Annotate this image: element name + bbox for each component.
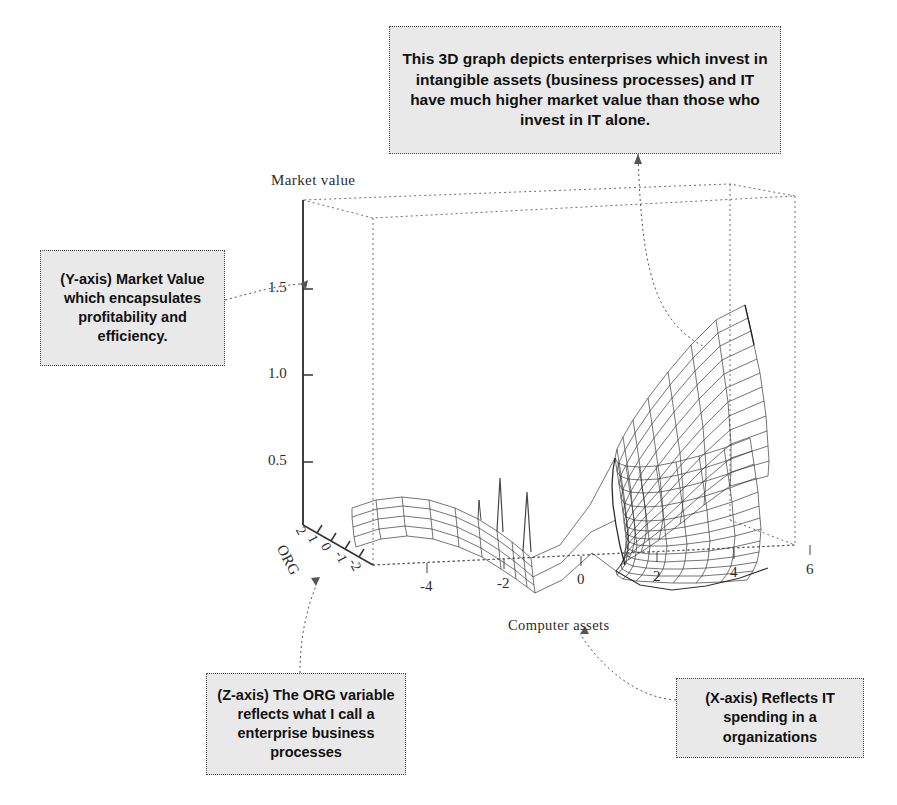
- callout-y-axis: (Y-axis) Market Value which encapsulates…: [40, 250, 225, 366]
- y-tick-2: 1.0: [268, 365, 287, 382]
- x-tick-1: -4: [420, 578, 433, 595]
- x-tick-4: 2: [653, 568, 661, 585]
- y-tick-3: 0.5: [268, 452, 287, 469]
- x-tick-6: 6: [806, 561, 814, 578]
- connector-top: [638, 154, 705, 347]
- y-tick-1: 1.5: [268, 279, 287, 296]
- callout-x-axis-text: (X-axis) Reflects IT spending in a organ…: [687, 689, 853, 746]
- x-tick-5: 4: [730, 564, 738, 581]
- callout-top-text: This 3D graph depicts enterprises which …: [400, 49, 770, 131]
- y-axis: [303, 200, 313, 525]
- figure-canvas: Market value Computer assets 1.5 1.0 0.5…: [0, 0, 897, 805]
- x-axis: [373, 545, 810, 573]
- x-tick-2: -2: [497, 575, 510, 592]
- callout-z-axis-text: (Z-axis) The ORG variable reflects what …: [217, 686, 395, 763]
- y-axis-label: Market value: [271, 172, 355, 189]
- x-tick-3: 0: [577, 571, 585, 588]
- callout-top: This 3D graph depicts enterprises which …: [389, 26, 781, 154]
- connector-left: [225, 284, 300, 300]
- callout-y-axis-text: (Y-axis) Market Value which encapsulates…: [51, 270, 214, 347]
- connector-bottom-right: [580, 634, 676, 700]
- callout-connectors: [225, 154, 705, 700]
- connector-bottom-left: [300, 586, 316, 673]
- callout-x-axis: (X-axis) Reflects IT spending in a organ…: [676, 678, 864, 758]
- x-axis-label: Computer assets: [508, 617, 609, 634]
- surface-mesh: [352, 305, 769, 593]
- callout-z-axis: (Z-axis) The ORG variable reflects what …: [206, 673, 406, 775]
